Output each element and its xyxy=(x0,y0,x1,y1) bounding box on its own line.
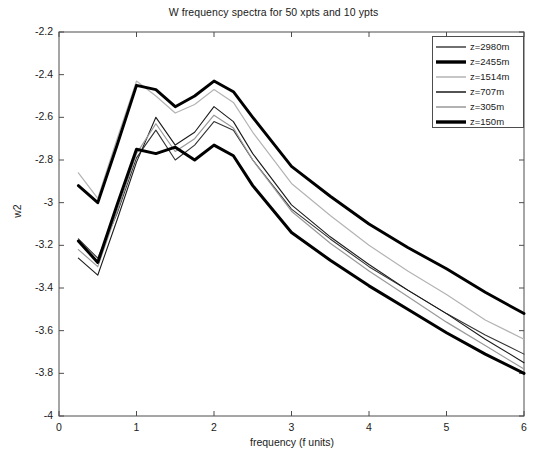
x-tick-label: 0 xyxy=(49,421,69,433)
legend-label-5: z=150m xyxy=(470,116,504,127)
chart-title: W frequency spectra for 50 xpts and 10 y… xyxy=(0,6,547,18)
legend-item-0[interactable]: z=2980m xyxy=(433,39,525,54)
y-tick-label: -3.2 xyxy=(19,238,53,250)
x-tick-label: 1 xyxy=(127,421,147,433)
legend-item-3[interactable]: z=707m xyxy=(433,84,525,99)
y-tick-label: -2.4 xyxy=(19,68,53,80)
series-line-z-305m xyxy=(78,115,524,369)
legend-swatch-icon-1 xyxy=(436,56,466,68)
legend-item-1[interactable]: z=2455m xyxy=(433,54,525,69)
legend-item-5[interactable]: z=150m xyxy=(433,114,525,129)
x-axis-label: frequency (f units) xyxy=(59,436,525,448)
x-tick-label: 3 xyxy=(282,421,302,433)
legend-label-0: z=2980m xyxy=(470,41,509,52)
x-tick-label: 4 xyxy=(359,421,379,433)
x-tick-label: 5 xyxy=(437,421,457,433)
legend-item-4[interactable]: z=305m xyxy=(433,99,525,114)
y-tick-label: -4 xyxy=(19,409,53,421)
y-tick-label: -3.4 xyxy=(19,281,53,293)
figure-container: W frequency spectra for 50 xpts and 10 y… xyxy=(0,0,547,459)
legend: z=2980m z=2455m z=1514m z=707m z=305m z=… xyxy=(432,36,524,128)
y-tick-label: -3.6 xyxy=(19,324,53,336)
x-tick-label: 6 xyxy=(514,421,534,433)
legend-swatch-icon-2 xyxy=(436,71,466,83)
legend-label-1: z=2455m xyxy=(470,56,509,67)
legend-label-4: z=305m xyxy=(470,101,504,112)
series-line-z-150m xyxy=(78,145,524,373)
legend-item-2[interactable]: z=1514m xyxy=(433,69,525,84)
y-tick-label: -2.2 xyxy=(19,25,53,37)
legend-label-3: z=707m xyxy=(470,86,504,97)
y-tick-label: -3.8 xyxy=(19,366,53,378)
y-tick-label: -2.6 xyxy=(19,110,53,122)
legend-swatch-icon-3 xyxy=(436,86,466,98)
legend-swatch-icon-5 xyxy=(436,116,466,128)
y-tick-label: -2.8 xyxy=(19,153,53,165)
legend-swatch-icon-0 xyxy=(436,41,466,53)
legend-label-2: z=1514m xyxy=(470,71,509,82)
legend-swatch-icon-4 xyxy=(436,101,466,113)
x-tick-label: 2 xyxy=(204,421,224,433)
y-tick-label: -3 xyxy=(19,196,53,208)
